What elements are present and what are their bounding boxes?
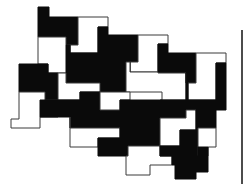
- black-step-tile: [216, 63, 226, 110]
- tessellation-svg: [0, 0, 244, 184]
- tessellation-figure: [0, 0, 244, 184]
- black-step-tile: [175, 165, 196, 179]
